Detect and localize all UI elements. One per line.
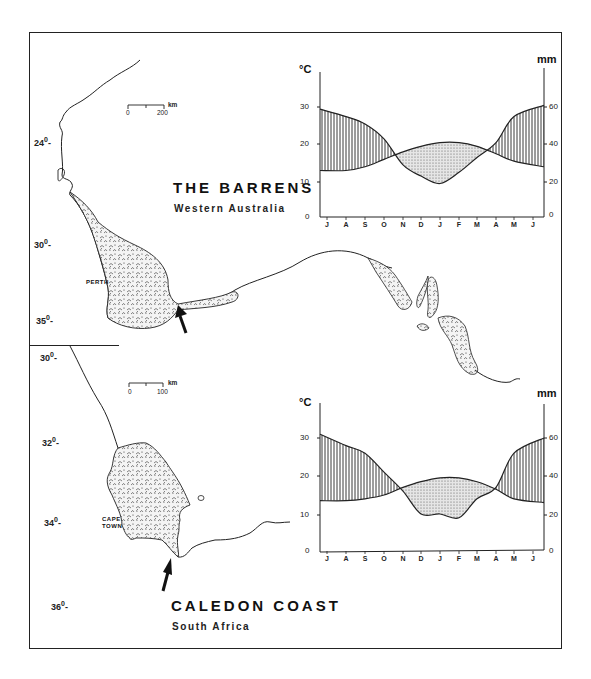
- scale-bar: [129, 383, 163, 387]
- month-label: J: [435, 221, 445, 228]
- scale-end: 200: [157, 109, 168, 116]
- scale-start: 0: [128, 388, 132, 395]
- y2-tick: 20: [549, 177, 558, 186]
- scale-unit: km: [168, 379, 177, 386]
- latitude-label: 360-: [51, 600, 68, 612]
- y2-tick: 40: [549, 139, 558, 148]
- scale-start: 0: [126, 109, 130, 116]
- y2-tick: 0: [549, 210, 553, 219]
- month-label: F: [454, 555, 464, 562]
- latitude-label: 240-: [34, 136, 51, 148]
- month-label: A: [341, 221, 351, 228]
- month-label: O: [379, 555, 389, 562]
- panel-subtitle: Western Australia: [174, 203, 286, 214]
- month-label: J: [528, 555, 538, 562]
- y2-tick: 0: [549, 546, 553, 555]
- month-label: A: [491, 555, 501, 562]
- y-tick: 20: [300, 471, 309, 480]
- y-tick: 10: [300, 177, 309, 186]
- y2-tick: 60: [549, 102, 558, 111]
- month-label: A: [491, 221, 501, 228]
- latitude-label: 300-: [34, 238, 51, 250]
- panel-subtitle: South Africa: [172, 621, 250, 632]
- month-label: M: [472, 555, 482, 562]
- month-label: M: [509, 221, 519, 228]
- month-label: S: [360, 555, 370, 562]
- right-axis-unit: mm: [537, 387, 557, 399]
- y-tick: 30: [300, 102, 309, 111]
- south-africa-map: [70, 346, 290, 591]
- latitude-label: 340-: [44, 516, 61, 528]
- month-label: D: [416, 555, 426, 562]
- panel-title: THE BARRENS: [173, 179, 314, 196]
- y2-tick: 20: [549, 510, 558, 519]
- y-tick: 30: [300, 433, 309, 442]
- scale-end: 100: [157, 388, 168, 395]
- month-label: S: [360, 221, 370, 228]
- caledon-climate-chart: [317, 403, 547, 554]
- city-label-perth: PERTH: [86, 279, 109, 286]
- y-tick: 0: [305, 212, 309, 221]
- figure-canvas: [0, 0, 591, 679]
- city-label-cape-town: CAPETOWN: [102, 516, 122, 530]
- left-axis-unit: °C: [299, 63, 311, 75]
- month-label: J: [528, 221, 538, 228]
- y-tick: 20: [300, 139, 309, 148]
- month-label: A: [341, 555, 351, 562]
- month-label: J: [322, 555, 332, 562]
- arrow-icon: [163, 558, 172, 591]
- barrens-climate-chart: [317, 68, 547, 220]
- latitude-label: 320-: [42, 436, 59, 448]
- panel-title: CALEDON COAST: [171, 597, 341, 614]
- left-axis-unit: °C: [299, 396, 311, 408]
- month-label: J: [435, 555, 445, 562]
- y2-tick: 60: [549, 433, 558, 442]
- y2-tick: 40: [549, 471, 558, 480]
- latitude-label: 350-: [36, 314, 53, 326]
- right-axis-unit: mm: [537, 53, 557, 65]
- scale-unit: km: [168, 101, 177, 108]
- month-label: O: [379, 221, 389, 228]
- month-label: D: [416, 221, 426, 228]
- month-label: F: [454, 221, 464, 228]
- month-label: J: [322, 221, 332, 228]
- latitude-label: 300-: [40, 351, 57, 363]
- month-label: N: [398, 555, 408, 562]
- month-label: M: [472, 221, 482, 228]
- month-label: N: [398, 221, 408, 228]
- month-label: M: [509, 555, 519, 562]
- y-tick: 10: [300, 510, 309, 519]
- y-tick: 0: [305, 546, 309, 555]
